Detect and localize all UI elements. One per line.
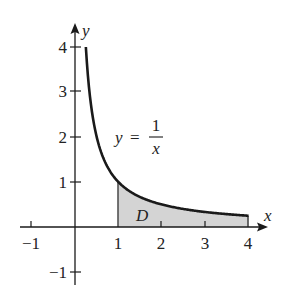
x-tick-label: 2 (157, 234, 166, 253)
equation-lhs: y (113, 128, 123, 147)
y-tick-label: −1 (49, 263, 67, 282)
y-axis-label: y (80, 21, 90, 40)
x-tick-label: 3 (201, 234, 210, 253)
y-tick-label: 2 (59, 128, 68, 147)
x-axis-label: x (263, 206, 272, 225)
y-tick-label: 4 (59, 38, 68, 57)
y-tick-label: 3 (59, 82, 68, 101)
x-tick-label: 4 (244, 234, 253, 253)
equation-equals: = (130, 128, 140, 147)
y-tick-label: 1 (59, 173, 68, 192)
equation-denominator: x (151, 139, 160, 158)
equation-numerator: 1 (152, 116, 161, 135)
equation-label: y = 1 x (113, 116, 163, 158)
diagram-canvas: −1 1 2 3 4 4 3 2 1 −1 x y D y = 1 x (0, 0, 287, 302)
region-label-d: D (135, 206, 149, 225)
curve-one-over-x (86, 47, 249, 216)
x-tick-label: −1 (22, 234, 40, 253)
x-tick-label: 1 (114, 234, 123, 253)
